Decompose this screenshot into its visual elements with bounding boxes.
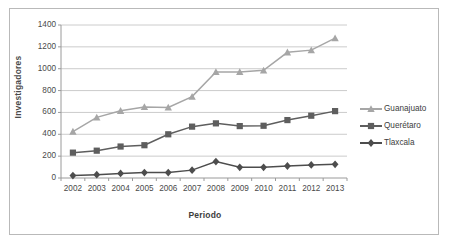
x-tick-label: 2004 xyxy=(108,184,134,193)
chart-legend: GuanajuatoQuerétaroTlaxcala xyxy=(360,100,446,151)
x-tick-label: 2002 xyxy=(60,184,86,193)
legend-label: Tlaxcala xyxy=(382,138,415,147)
diamond-marker-icon xyxy=(360,137,382,149)
series-quertaro xyxy=(70,108,338,156)
x-tick-label: 2005 xyxy=(131,184,157,193)
x-tick-label: 2011 xyxy=(274,184,300,193)
x-axis-title: Periodo xyxy=(60,210,350,220)
triangle-marker-icon xyxy=(360,103,382,115)
square-marker-icon xyxy=(360,120,382,132)
x-tick-label: 2003 xyxy=(84,184,110,193)
y-tick-label: 1200 xyxy=(22,42,56,51)
series-tlaxcala xyxy=(70,158,339,180)
gridlines xyxy=(61,25,347,156)
y-tick-label: 1000 xyxy=(22,64,56,73)
y-tick-label: 1400 xyxy=(22,20,56,29)
legend-item-quertaro[interactable]: Querétaro xyxy=(360,117,446,134)
y-tick-label: 800 xyxy=(22,86,56,95)
legend-label: Guanajuato xyxy=(382,104,426,113)
x-tick-label: 2012 xyxy=(298,184,324,193)
y-tick-label: 600 xyxy=(22,107,56,116)
x-tick-label: 2013 xyxy=(322,184,348,193)
x-tick-label: 2006 xyxy=(155,184,181,193)
y-tick-label: 0 xyxy=(22,173,56,182)
y-tick-label: 200 xyxy=(22,151,56,160)
legend-label: Querétaro xyxy=(382,121,421,130)
x-tick-label: 2008 xyxy=(203,184,229,193)
legend-item-guanajuato[interactable]: Guanajuato xyxy=(360,100,446,117)
x-tick-label: 2007 xyxy=(179,184,205,193)
x-tick-label: 2009 xyxy=(227,184,253,193)
legend-item-tlaxcala[interactable]: Tlaxcala xyxy=(360,134,446,151)
y-tick-label: 400 xyxy=(22,129,56,138)
series-guanajuato xyxy=(69,34,339,134)
x-tick-label: 2010 xyxy=(251,184,277,193)
